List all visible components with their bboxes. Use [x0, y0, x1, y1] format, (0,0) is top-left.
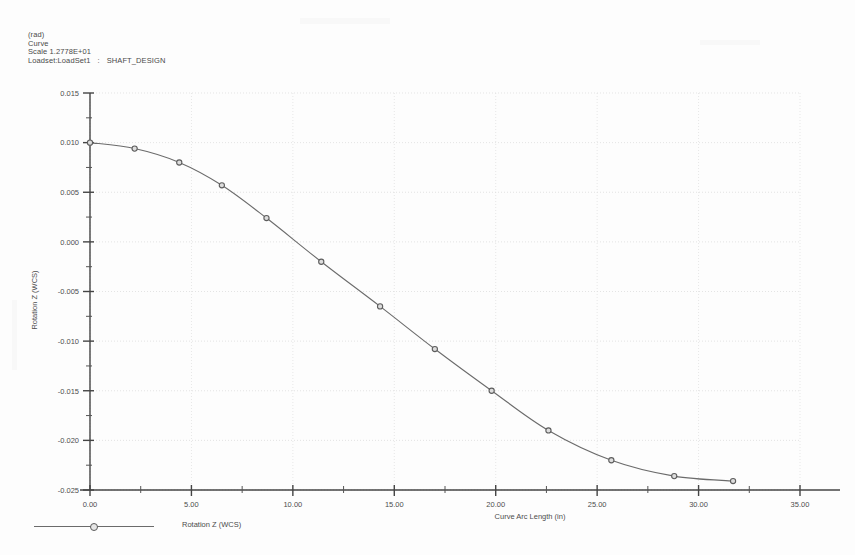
y-tick-label: -0.020 — [58, 436, 79, 445]
data-point-marker — [177, 160, 182, 165]
chart-page: (rad) Curve Scale 1.2778E+01 Loadset:Loa… — [0, 0, 855, 555]
y-tick-label: -0.025 — [58, 486, 79, 495]
y-axis: -0.025-0.020-0.015-0.010-0.0050.0000.005… — [58, 89, 94, 495]
x-tick-label: 0.00 — [83, 500, 98, 509]
data-point-marker — [319, 259, 324, 264]
x-tick-label: 25.00 — [588, 500, 607, 509]
x-tick-label: 35.00 — [791, 500, 810, 509]
y-tick-label: -0.015 — [58, 387, 79, 396]
data-point-marker — [219, 183, 224, 188]
data-point-marker — [730, 478, 735, 483]
data-point-marker — [264, 215, 269, 220]
x-axis-title: Curve Arc Length (in) — [495, 512, 566, 521]
y-axis-title: Rotation Z (WCS) — [30, 270, 39, 330]
legend-entry-label: Rotation Z (WCS) — [182, 520, 241, 529]
data-point-marker — [87, 140, 92, 145]
chart-legend: Rotation Z (WCS) — [34, 518, 334, 536]
data-point-marker — [546, 428, 551, 433]
x-tick-label: 20.00 — [486, 500, 505, 509]
legend-circle-marker-icon — [90, 523, 98, 531]
y-tick-label: -0.010 — [58, 337, 79, 346]
y-tick-label: 0.010 — [60, 138, 79, 147]
y-tick-label: 0.000 — [60, 238, 79, 247]
data-point-marker — [432, 346, 437, 351]
grid-lines — [90, 93, 800, 490]
y-tick-label: 0.005 — [60, 188, 79, 197]
y-tick-label: -0.005 — [58, 287, 79, 296]
data-point-marker — [609, 458, 614, 463]
x-tick-label: 5.00 — [184, 500, 199, 509]
x-tick-label: 30.00 — [689, 500, 708, 509]
y-tick-label: 0.015 — [60, 89, 79, 98]
series-line — [90, 143, 733, 481]
data-point-marker — [377, 304, 382, 309]
data-point-marker — [489, 388, 494, 393]
x-tick-label: 10.00 — [283, 500, 302, 509]
data-series — [87, 140, 735, 484]
data-point-marker — [132, 146, 137, 151]
x-axis: 0.005.0010.0015.0020.0025.0030.0035.00 — [80, 485, 840, 509]
plot-canvas: -0.025-0.020-0.015-0.010-0.0050.0000.005… — [0, 0, 855, 555]
data-point-marker — [672, 474, 677, 479]
x-tick-label: 15.00 — [385, 500, 404, 509]
